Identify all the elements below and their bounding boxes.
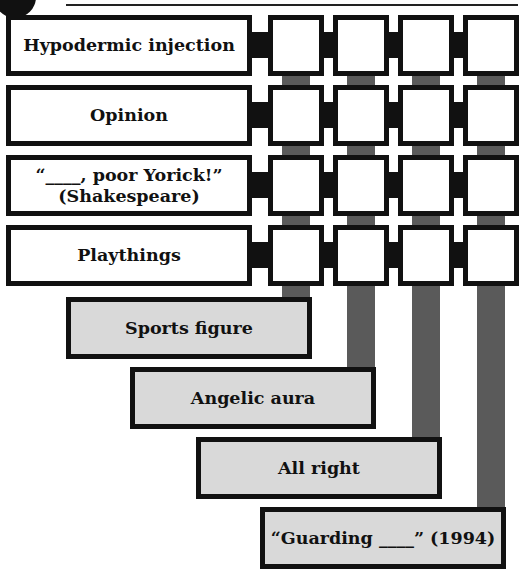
grid-cell-r1-c4[interactable] bbox=[463, 15, 519, 76]
grid-cell-r4-c2[interactable] bbox=[333, 225, 389, 286]
across-connector bbox=[250, 172, 270, 198]
across-clue-2-label: Opinion bbox=[90, 105, 168, 126]
grid-cell-r2-c1[interactable] bbox=[268, 85, 324, 146]
down-clue-1-label: Sports figure bbox=[125, 318, 253, 339]
header-rule bbox=[66, 4, 518, 6]
across-clue-1-label: Hypodermic injection bbox=[23, 35, 235, 56]
down-clue-3-label: All right bbox=[278, 458, 360, 479]
across-clue-2: Opinion bbox=[6, 85, 252, 146]
grid-cell-r1-c1[interactable] bbox=[268, 15, 324, 76]
across-clue-4: Playthings bbox=[6, 225, 252, 286]
grid-cell-r3-c4[interactable] bbox=[463, 155, 519, 216]
down-clue-4: “Guarding ____” (1994) bbox=[260, 507, 506, 569]
grid-cell-r2-c4[interactable] bbox=[463, 85, 519, 146]
down-clue-4-label: “Guarding ____” (1994) bbox=[271, 528, 496, 549]
across-clue-3: “____, poor Yorick!” (Shakespeare) bbox=[6, 155, 252, 216]
grid-cell-r3-c2[interactable] bbox=[333, 155, 389, 216]
across-clue-3-line2: (Shakespeare) bbox=[58, 186, 199, 207]
grid-cell-r4-c3[interactable] bbox=[398, 225, 454, 286]
grid-cell-r4-c1[interactable] bbox=[268, 225, 324, 286]
grid-cell-r3-c3[interactable] bbox=[398, 155, 454, 216]
grid-cell-r1-c2[interactable] bbox=[333, 15, 389, 76]
grid-cell-r2-c3[interactable] bbox=[398, 85, 454, 146]
down-clue-2-label: Angelic aura bbox=[191, 388, 315, 409]
across-clue-3-line1: “____, poor Yorick!” bbox=[35, 165, 222, 186]
grid-cell-r2-c2[interactable] bbox=[333, 85, 389, 146]
across-clue-4-label: Playthings bbox=[77, 245, 181, 266]
across-clue-1: Hypodermic injection bbox=[6, 15, 252, 76]
grid-cell-r3-c1[interactable] bbox=[268, 155, 324, 216]
down-clue-2: Angelic aura bbox=[130, 367, 376, 429]
across-connector bbox=[250, 242, 270, 268]
grid-cell-r4-c4[interactable] bbox=[463, 225, 519, 286]
across-connector bbox=[250, 102, 270, 128]
grid-cell-r1-c3[interactable] bbox=[398, 15, 454, 76]
down-clue-3: All right bbox=[196, 437, 442, 499]
down-clue-1: Sports figure bbox=[66, 297, 312, 359]
across-connector bbox=[250, 32, 270, 58]
